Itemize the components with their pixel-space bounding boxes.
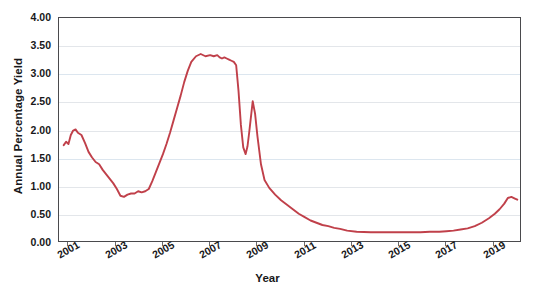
- x-axis-tick-label: 2013: [339, 238, 365, 260]
- x-axis-tick-label: 2011: [292, 239, 318, 261]
- x-axis-tick-label: 2019: [481, 238, 507, 260]
- x-axis-tick-label: 2007: [197, 238, 223, 260]
- x-axis-tick-label: 2003: [103, 238, 129, 260]
- x-axis-title: Year: [0, 272, 535, 284]
- chart-container: Annual Percentage Yield 0.000.501.001.50…: [0, 0, 535, 293]
- x-axis-tick-label: 2009: [244, 238, 270, 260]
- x-axis-tick-labels: 2001200320052007200920112013201520172019: [0, 0, 535, 293]
- x-axis-tick-label: 2001: [55, 238, 81, 260]
- x-axis-tick-label: 2005: [150, 238, 176, 260]
- x-axis-tick-label: 2015: [386, 238, 412, 260]
- x-axis-tick-label: 2017: [433, 238, 459, 260]
